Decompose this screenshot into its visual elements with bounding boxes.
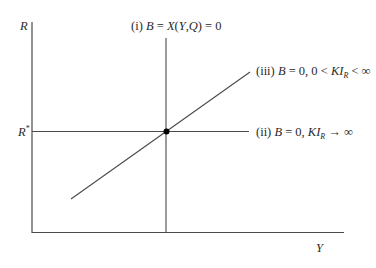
curve-iii-var-b: B [278,64,286,78]
curve-i-func: X [167,19,175,33]
curve-i-label: (i) B = X(Y,Q) = 0 [131,20,222,33]
curve-i-arg2: Q [189,19,198,33]
y-axis-label-text: R [20,19,28,33]
curve-i-eq1: = [154,19,167,33]
curve-iii-sloped-line [71,72,250,199]
curve-ii-eq: = 0, [282,125,308,139]
curve-i-arg1: Y [179,19,186,33]
curve-ii-ki: KI [308,125,321,139]
diagram: R R* Y (i) B = X(Y,Q) = 0 (iii) B = 0, 0… [0,0,376,268]
curve-ii-prefix: (ii) [256,125,274,139]
curve-iii-label: (iii) B = 0, 0 < KIR < ∞ [256,65,370,80]
y-axis-label: R [20,20,28,33]
curve-iii-ki: KI [331,64,344,78]
curve-ii-var-b: B [274,125,282,139]
r-star-label: R* [18,125,30,139]
curve-i-eq2: = 0 [202,19,222,33]
curve-i-var-b: B [146,19,154,33]
curve-ii-label: (ii) B = 0, KIR → ∞ [256,126,353,141]
curve-ii-tail: → ∞ [325,125,353,139]
r-star-superscript: * [26,124,30,133]
equilibrium-point [164,129,170,135]
x-axis-label: Y [316,242,323,255]
curve-iii-tail: < ∞ [348,64,370,78]
curve-iii-prefix: (iii) [256,64,278,78]
r-star-base: R [18,125,26,139]
x-axis-label-text: Y [316,241,323,255]
curve-iii-eq: = 0, 0 < [286,64,331,78]
curve-i-prefix: (i) [131,19,146,33]
